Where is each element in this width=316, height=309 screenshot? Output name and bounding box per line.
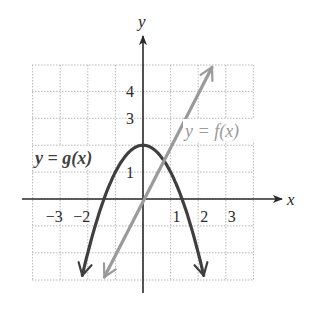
y-tick-label: 1 [126,164,134,181]
g-label-paren: (x) [71,148,92,169]
y-axis-label: y [136,12,146,31]
g-label: y = g(x) [33,148,92,169]
y-tick-label: 4 [126,83,134,100]
x-tick-label: 2 [200,208,208,225]
x-tick-label: −2 [73,208,90,225]
f-label: y = f(x) [183,121,239,142]
g-label-main: y = g [33,148,71,168]
f-label-paren: (x) [219,121,239,142]
x-tick-label: 1 [173,208,181,225]
function-graph: x y −3−2123 134 y = g(x) y = f(x) [0,0,316,309]
f-label-main: y = f [183,121,222,141]
x-axis-label: x [286,190,295,209]
x-tick-label: −3 [46,208,63,225]
y-tick-labels: 134 [126,83,134,181]
y-tick-label: 3 [126,110,134,127]
x-tick-label: 3 [228,208,236,225]
x-tick-labels: −3−2123 [46,208,236,225]
